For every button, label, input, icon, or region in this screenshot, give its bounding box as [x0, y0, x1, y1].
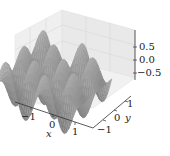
y-tick-label: 1 [127, 99, 133, 109]
x-tick-label: −1 [21, 112, 36, 122]
y-axis-label: y [125, 113, 131, 123]
z-tick-label: −0.5 [137, 68, 161, 78]
surface-plot-figure: 0.5 0.0 −0.5 −1 0 1 x −1 0 1 y [0, 0, 170, 156]
surface-plot-canvas [0, 0, 170, 156]
z-tick-label: 0.0 [139, 55, 155, 65]
y-tick-label: −1 [97, 125, 112, 135]
x-tick-label: 1 [72, 127, 78, 137]
z-tick-label: 0.5 [139, 42, 155, 52]
x-axis-label: x [46, 129, 52, 139]
y-tick-label: 0 [114, 113, 120, 123]
